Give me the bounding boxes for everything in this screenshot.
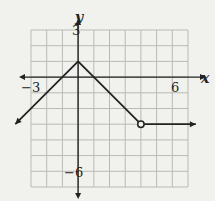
function-graph bbox=[0, 0, 215, 201]
y-axis-label: y bbox=[75, 10, 83, 24]
x-tick-min: −3 bbox=[21, 81, 40, 94]
y-tick-min: −6 bbox=[64, 166, 83, 179]
x-axis-label: x bbox=[201, 71, 209, 85]
graph-lines bbox=[15, 61, 196, 127]
grid bbox=[31, 30, 188, 187]
y-tick-max: 3 bbox=[72, 24, 80, 37]
x-tick-max: 6 bbox=[171, 81, 179, 94]
